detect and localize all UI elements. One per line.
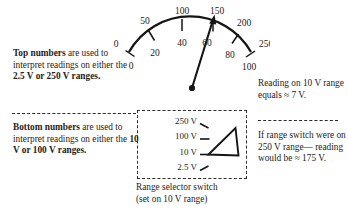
bottom-number-60: 60: [202, 38, 212, 48]
dial-tick-50: [149, 31, 155, 41]
top-number-50: 50: [140, 16, 150, 26]
top-number-150: 150: [210, 6, 225, 16]
divider-right: [258, 120, 338, 121]
range-selector-switch[interactable]: 250 V 100 V 10 V 2.5 V: [137, 110, 247, 179]
top-number-100: 100: [175, 6, 190, 16]
switch-caption-line2: (set on 10 V range): [136, 193, 266, 205]
contact-stub-2.5v: [200, 166, 209, 171]
switch-wedge-pointer[interactable]: [209, 128, 239, 156]
annotation-top-left-lead: Top numbers: [13, 48, 66, 58]
switch-caption-line1: Range selector switch: [136, 181, 266, 193]
bottom-number-40: 40: [177, 38, 187, 48]
annotation-bottom-right: If range switch were on 250 V range— rea…: [258, 130, 346, 165]
bottom-number-80: 80: [225, 50, 235, 60]
top-number-200: 200: [237, 18, 252, 28]
bottom-number-100: 100: [242, 62, 257, 72]
annotation-bottom-left-lead: Bottom numbers: [13, 122, 80, 132]
bottom-number-20: 20: [150, 48, 160, 58]
needle-pivot: [189, 85, 195, 91]
contact-stub-250v: [200, 124, 209, 129]
needle-pointer: [192, 22, 213, 89]
figure-canvas: 0 50 100 150 200 250 0 20 40 60 80 100 T…: [0, 0, 348, 219]
annotation-bottom-left: Bottom numbers are used to interpret rea…: [13, 122, 141, 157]
top-number-250: 250: [259, 39, 270, 49]
annotation-top-right: Reading on 10 V range equals ≈ 7 V.: [258, 78, 344, 101]
switch-caption: Range selector switch (set on 10 V range…: [136, 181, 266, 205]
annotation-top-left-emph: 2.5 V or 250 V ranges.: [13, 71, 100, 81]
annotation-top-left: Top numbers are used to interpret readin…: [13, 48, 135, 83]
divider-left: [12, 113, 136, 114]
dial-tick-200: [232, 34, 239, 44]
range-switch-svg: [138, 111, 246, 177]
